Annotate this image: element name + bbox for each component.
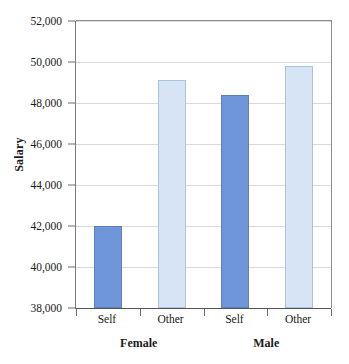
bar-male-self[interactable] (221, 95, 249, 308)
x-axis-label-male-other: Other (285, 313, 311, 325)
y-axis-tick-label: 46,000 (0, 138, 62, 150)
y-axis-tick-mark (68, 21, 75, 22)
y-axis-tick-label: 40,000 (0, 261, 62, 273)
x-axis-label-female-self: Self (98, 313, 117, 325)
bar-female-self[interactable] (94, 226, 122, 308)
y-axis-tick-mark (68, 103, 75, 104)
bars-layer (76, 21, 331, 308)
x-axis-label-male-self: Self (225, 313, 244, 325)
bar-male-other[interactable] (285, 66, 313, 308)
y-axis-tick-label: 52,000 (0, 15, 62, 27)
x-axis-group-labels: Female Male (75, 336, 330, 354)
y-axis-tick-mark (68, 185, 75, 186)
y-axis-tick-label: 50,000 (0, 56, 62, 68)
y-axis-tick-label: 44,000 (0, 179, 62, 191)
x-axis-group-label-male: Male (253, 336, 279, 351)
y-axis-tick-mark (68, 267, 75, 268)
x-axis-tick-mark (331, 309, 332, 316)
y-axis-tick-mark (68, 144, 75, 145)
x-axis-category-labels: Self Other Self Other (75, 313, 330, 331)
y-axis-tick-mark (68, 226, 75, 227)
bar-chart: Salary 52,000 50,000 48,000 46,000 44,00… (0, 0, 349, 364)
plot-right-border (331, 20, 332, 308)
plot-area (75, 21, 331, 309)
y-axis-tick-label: 48,000 (0, 97, 62, 109)
y-axis-tick-mark (68, 308, 75, 309)
x-axis-label-female-other: Other (158, 313, 184, 325)
x-axis-group-label-female: Female (120, 336, 157, 351)
y-axis-tick-label: 42,000 (0, 220, 62, 232)
y-axis-tick-mark (68, 62, 75, 63)
bar-female-other[interactable] (158, 80, 186, 308)
y-axis-tick-label: 38,000 (0, 302, 62, 314)
